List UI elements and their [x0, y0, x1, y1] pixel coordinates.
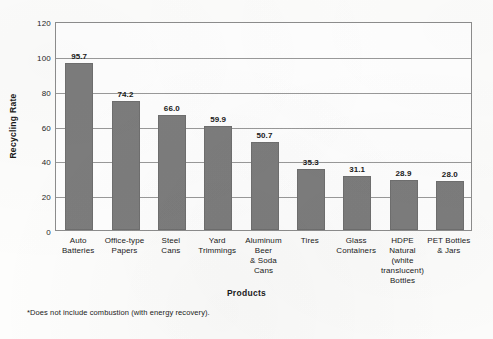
bar	[251, 142, 279, 230]
x-axis-category-line: Steel	[148, 236, 194, 246]
bar-value-label: 28.0	[442, 170, 458, 179]
bar-column: 74.2	[112, 23, 140, 230]
chart-figure: Recycling Rate 020406080100120 95.774.26…	[0, 0, 493, 339]
y-axis-tick-label: 20	[42, 193, 51, 202]
bar-column: 95.7	[65, 23, 93, 230]
bar	[204, 126, 232, 230]
x-axis-category-line: & Jars	[426, 246, 472, 256]
x-axis-category-line: Cans	[148, 246, 194, 256]
x-axis-category-line: Tires	[287, 236, 333, 246]
x-axis-category-label: GlassContainers	[333, 236, 379, 256]
bar-value-label: 50.7	[257, 131, 273, 140]
x-axis-category-label: AutoBatteries	[55, 236, 101, 256]
x-axis-category-line: (white	[379, 256, 425, 266]
y-axis-tick-label: 40	[42, 158, 51, 167]
x-axis-title: Products	[0, 288, 493, 298]
y-axis-tick-label: 120	[37, 19, 51, 28]
x-axis-category-label: Aluminum Beer& Soda Cans	[240, 236, 286, 276]
x-axis-category-line: translucent)	[379, 266, 425, 276]
x-axis-category-line: Yard	[194, 236, 240, 246]
bar-column: 50.7	[251, 23, 279, 230]
bar	[436, 181, 464, 230]
x-axis-category-label: HDPE Natural(whitetranslucent)Bottles	[379, 236, 425, 286]
x-axis-category-line: Aluminum Beer	[240, 236, 286, 256]
bar-value-label: 95.7	[71, 52, 87, 61]
x-axis-category-label: SteelCans	[148, 236, 194, 256]
bar	[390, 180, 418, 230]
y-axis-tick-label: 0	[46, 228, 51, 237]
bar-column: 59.9	[204, 23, 232, 230]
bar-column: 31.1	[343, 23, 371, 230]
bar-value-label: 74.2	[118, 90, 134, 99]
bar	[158, 115, 186, 230]
bar-column: 66.0	[158, 23, 186, 230]
bar-value-label: 66.0	[164, 104, 180, 113]
x-axis-category-line: Containers	[333, 246, 379, 256]
bar-column: 28.9	[390, 23, 418, 230]
bar-value-label: 31.1	[349, 165, 365, 174]
bar	[65, 63, 93, 230]
x-axis-category-line: Batteries	[55, 246, 101, 256]
y-axis-tick-label: 60	[42, 123, 51, 132]
bar-column: 28.0	[436, 23, 464, 230]
bar	[343, 176, 371, 230]
bar-column: 35.3	[297, 23, 325, 230]
x-axis-category-label: YardTrimmings	[194, 236, 240, 256]
x-axis-category-line: Bottles	[379, 276, 425, 286]
x-axis-category-line: Papers	[101, 246, 147, 256]
x-axis-category-label: Tires	[287, 236, 333, 246]
x-axis-category-line: PET Bottles	[426, 236, 472, 246]
y-axis-tick-label: 80	[42, 88, 51, 97]
x-axis-category-line: & Soda Cans	[240, 256, 286, 276]
x-axis-category-line: Trimmings	[194, 246, 240, 256]
bar-value-label: 28.9	[396, 169, 412, 178]
bar-value-label: 59.9	[210, 115, 226, 124]
x-axis-category-label: Office-typePapers	[101, 236, 147, 256]
y-axis-tick-label: 100	[37, 53, 51, 62]
x-axis-category-line: Auto	[55, 236, 101, 246]
x-axis-category-line: Office-type	[101, 236, 147, 246]
x-axis-category-line: HDPE Natural	[379, 236, 425, 256]
x-axis-category-label: PET Bottles& Jars	[426, 236, 472, 256]
bar-value-label: 35.3	[303, 158, 319, 167]
y-axis-title: Recycling Rate	[8, 93, 18, 158]
footnote: *Does not include combustion (with energ…	[27, 308, 210, 317]
plot-area: 020406080100120 95.774.266.059.950.735.3…	[55, 22, 472, 231]
x-axis-category-line: Glass	[333, 236, 379, 246]
bar	[112, 101, 140, 230]
bar	[297, 169, 325, 230]
